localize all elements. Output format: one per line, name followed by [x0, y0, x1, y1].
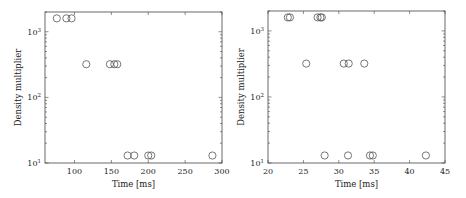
- data-point-marker: [131, 152, 138, 159]
- x-tick-label: 25: [298, 167, 308, 176]
- data-point-marker: [106, 61, 113, 68]
- x-axis-label: Time [ms]: [112, 179, 155, 189]
- x-tick-label: 35: [369, 167, 379, 176]
- x-tick-label: 150: [104, 167, 119, 176]
- data-point-marker: [321, 152, 328, 159]
- x-tick-label: 300: [214, 167, 229, 176]
- plot-frame: [268, 11, 445, 163]
- data-point-marker: [344, 152, 351, 159]
- y-axis-label: Density multiplier: [236, 47, 246, 126]
- x-tick-label: 200: [141, 167, 156, 176]
- scatter-plot-right: 202530354045101102103Time [ms]Density mu…: [236, 11, 450, 189]
- data-point-marker: [53, 15, 60, 22]
- data-point-marker: [83, 61, 90, 68]
- x-tick-label: 30: [334, 167, 344, 176]
- data-point-marker: [422, 152, 429, 159]
- chart-figure: 100150200250300101102103Time [ms]Density…: [0, 0, 466, 198]
- data-point-marker: [209, 152, 216, 159]
- x-axis-label: Time [ms]: [335, 179, 378, 189]
- scatter-plot-left: 100150200250300101102103Time [ms]Density…: [13, 12, 230, 189]
- y-tick-label: 102: [250, 92, 264, 102]
- data-point-marker: [303, 60, 310, 67]
- y-tick-label: 101: [27, 158, 41, 168]
- data-point-marker: [361, 60, 368, 67]
- y-tick-label: 102: [27, 92, 41, 102]
- x-tick-label: 40: [405, 167, 415, 176]
- x-tick-label: 20: [263, 167, 273, 176]
- data-point-marker: [68, 15, 75, 22]
- x-tick-label: 45: [440, 167, 450, 176]
- data-point-marker: [124, 152, 131, 159]
- y-axis-label: Density multiplier: [13, 48, 23, 127]
- y-tick-label: 103: [27, 27, 41, 37]
- x-tick-label: 100: [67, 167, 82, 176]
- data-point-marker: [345, 60, 352, 67]
- y-tick-label: 103: [250, 26, 264, 36]
- x-tick-label: 250: [177, 167, 192, 176]
- plot-frame: [45, 12, 222, 163]
